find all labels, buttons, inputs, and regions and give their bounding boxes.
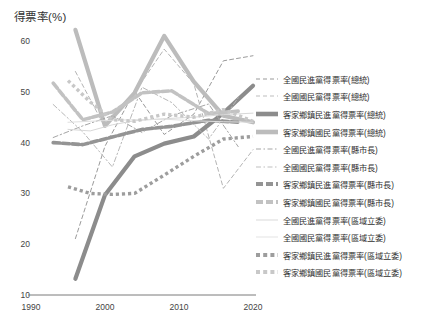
legend-item-label: 客家鄉鎮國民黨得票率(區域立委) xyxy=(283,266,402,278)
legend-key-swatch xyxy=(256,109,278,119)
legend-item[interactable]: 客家鄉鎮國民黨得票率(縣市長) xyxy=(256,193,428,211)
legend-item-label: 全國民進黨得票率(總統) xyxy=(283,73,370,85)
legend-item[interactable]: 客家鄉鎮民進黨得票率(總統) xyxy=(256,105,428,123)
x-tick-2010: 2010 xyxy=(170,302,189,312)
legend-key-swatch xyxy=(256,91,278,101)
legend-item[interactable]: 全國國民黨得票率(總統) xyxy=(256,88,428,106)
legend-key-swatch xyxy=(256,74,278,84)
legend-item[interactable]: 客家鄉鎮民進黨得票率(區域立委) xyxy=(256,246,428,264)
chart-legend: 全國民進黨得票率(總統)全國國民黨得票率(總統)客家鄉鎮民進黨得票率(總統)客家… xyxy=(256,70,428,281)
legend-item-label: 全國國民黨得票率(縣市長) xyxy=(283,161,378,173)
legend-key-swatch xyxy=(256,127,278,137)
legend-key-swatch xyxy=(256,162,278,172)
legend-item[interactable]: 全國國民黨得票率(縣市長) xyxy=(256,158,428,176)
legend-item[interactable]: 全國民進黨得票率(總統) xyxy=(256,70,428,88)
x-tick-2000: 2000 xyxy=(96,302,115,312)
x-tick-2020: 2020 xyxy=(244,302,263,312)
legend-item-label: 全國民進黨得票率(縣市長) xyxy=(283,143,378,155)
legend-item[interactable]: 全國民進黨得票率(縣市長) xyxy=(256,140,428,158)
legend-key-swatch xyxy=(256,144,278,154)
legend-item-label: 客家鄉鎮國民黨得票率(縣市長) xyxy=(283,196,394,208)
legend-item[interactable]: 全國國民黨得票率(區域立委) xyxy=(256,228,428,246)
x-tick-1990: 1990 xyxy=(22,302,41,312)
vote-share-line-chart: 得票率(%) 605040302010 1990200020102020 全國民… xyxy=(0,0,429,326)
legend-key-swatch xyxy=(256,250,278,260)
legend-item-label: 客家鄉鎮民進黨得票率(縣市長) xyxy=(283,178,394,190)
series-line-0 xyxy=(75,56,253,239)
legend-item-label: 全國國民黨得票率(總統) xyxy=(283,90,370,102)
legend-item[interactable]: 客家鄉鎮民進黨得票率(縣市長) xyxy=(256,176,428,194)
legend-item[interactable]: 全國民進黨得票率(區域立委) xyxy=(256,211,428,229)
legend-item[interactable]: 客家鄉鎮國民黨得票率(總統) xyxy=(256,123,428,141)
legend-item-label: 客家鄉鎮民進黨得票率(區域立委) xyxy=(283,249,402,261)
legend-item-label: 全國國民黨得票率(區域立委) xyxy=(283,231,386,243)
legend-key-swatch xyxy=(256,197,278,207)
legend-item-label: 全國民進黨得票率(區域立委) xyxy=(283,214,386,226)
legend-key-swatch xyxy=(256,179,278,189)
legend-key-swatch xyxy=(256,232,278,242)
legend-key-swatch xyxy=(256,215,278,225)
legend-item-label: 客家鄉鎮民進黨得票率(總統) xyxy=(283,108,386,120)
legend-item[interactable]: 客家鄉鎮國民黨得票率(區域立委) xyxy=(256,264,428,282)
legend-key-swatch xyxy=(256,267,278,277)
legend-item-label: 客家鄉鎮國民黨得票率(總統) xyxy=(283,126,386,138)
